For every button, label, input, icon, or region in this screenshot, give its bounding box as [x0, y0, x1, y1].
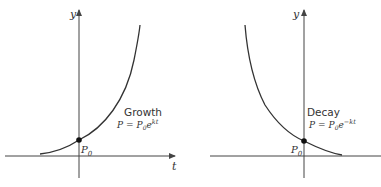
growth-curve	[40, 25, 140, 154]
t-axis-label: t	[172, 160, 177, 173]
initial-point-marker	[76, 137, 82, 143]
y-axis-label: y	[69, 8, 77, 21]
y-axis-label: y	[292, 8, 300, 21]
decay-formula: P=P0e−kt	[308, 118, 356, 131]
decay-curve	[245, 25, 342, 155]
initial-point-marker	[301, 138, 307, 144]
growth-formula: P=P0ekt	[116, 118, 159, 131]
growth-title: Growth	[124, 106, 162, 118]
decay-panel: y P0 Decay P=P0e−kt	[210, 8, 381, 178]
exponential-diagrams: y t P0 Growth P=P0ekt y P0 Decay P=P0e−k…	[0, 0, 381, 187]
decay-title: Decay	[307, 106, 340, 118]
growth-panel: y t P0 Growth P=P0ekt	[5, 8, 177, 178]
